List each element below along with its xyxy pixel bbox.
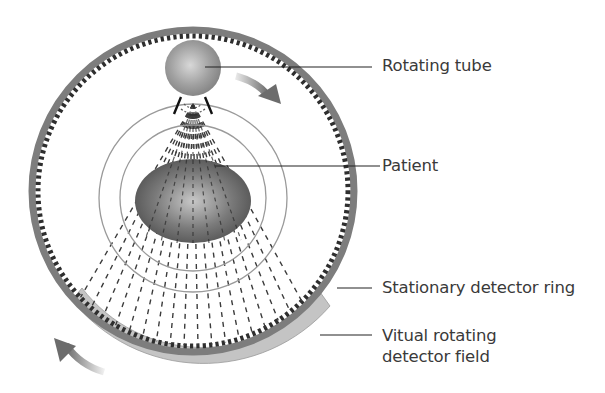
ct-scanner-diagram <box>0 0 605 393</box>
rotating-tube <box>165 40 221 114</box>
label-virtual-field-line1: Vitual rotating <box>382 326 496 346</box>
label-rotating-tube: Rotating tube <box>382 56 492 76</box>
clockwise-rotation-arrow <box>236 76 281 104</box>
counterclockwise-arrow <box>54 338 104 372</box>
label-patient: Patient <box>382 156 438 176</box>
label-virtual-field-line2: detector field <box>382 347 490 367</box>
label-stationary-detector-ring: Stationary detector ring <box>382 278 575 298</box>
